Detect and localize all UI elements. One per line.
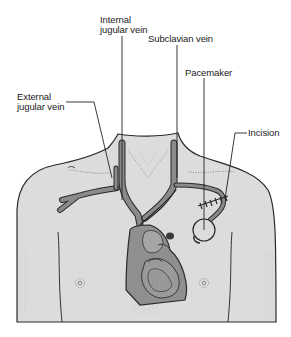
label-subclavian-vein: Subclavian vein (148, 34, 213, 44)
label-pacemaker: Pacemaker (185, 68, 232, 78)
pacemaker-diagram (0, 0, 291, 337)
label-external-jugular-vein: External jugular vein (17, 92, 64, 112)
label-internal-jugular-vein: Internal jugular vein (100, 15, 147, 35)
label-incision: Incision (248, 128, 279, 138)
